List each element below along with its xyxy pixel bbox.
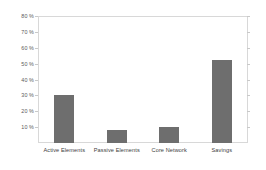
bar xyxy=(107,130,127,143)
bar-chart-figure: 10 %20 %30 %40 %50 %60 %70 %80 % Active … xyxy=(0,0,266,170)
x-axis-tick-label: Passive Elements xyxy=(94,147,140,153)
bar xyxy=(54,95,74,143)
y-axis-tick-label: 70 % xyxy=(21,29,34,35)
y-axis-tick-labels: 10 %20 %30 %40 %50 %60 %70 %80 % xyxy=(0,16,34,143)
y-axis-tick-label: 40 % xyxy=(21,77,34,83)
y-axis-tick-label: 30 % xyxy=(21,92,34,98)
x-axis-tick-labels: Active ElementsPassive ElementsCore Netw… xyxy=(38,147,248,161)
y-axis-tick-label: 10 % xyxy=(21,124,34,130)
y-axis-tick-label: 50 % xyxy=(21,61,34,67)
y-axis-tick-label: 20 % xyxy=(21,108,34,114)
bar xyxy=(159,127,179,143)
x-axis-tick-label: Active Elements xyxy=(43,147,85,153)
bar xyxy=(212,60,232,143)
bars-layer xyxy=(38,16,248,143)
y-axis-tick-label: 60 % xyxy=(21,45,34,51)
x-axis-tick-label: Core Network xyxy=(152,147,187,153)
x-axis-tick-label: Savings xyxy=(211,147,232,153)
y-axis-tick-label: 80 % xyxy=(21,13,34,19)
